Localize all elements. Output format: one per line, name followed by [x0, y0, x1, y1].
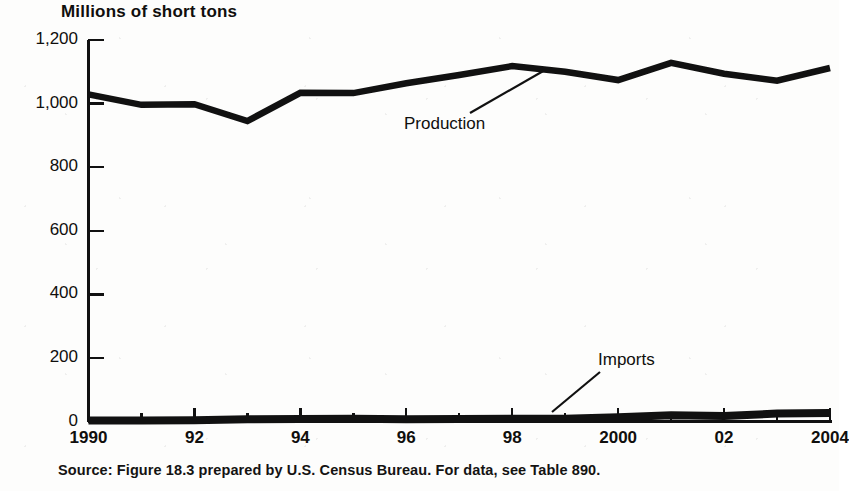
- series-label-production: Production: [404, 114, 485, 134]
- x-tick-label-1998: 98: [503, 428, 522, 448]
- x-tick-label-2000: 2000: [599, 428, 637, 448]
- x-tick-label-1994: 94: [291, 428, 310, 448]
- x-tick-label-2002: 02: [715, 428, 734, 448]
- y-tick-label-0: 0: [0, 411, 78, 431]
- series-label-imports: Imports: [598, 350, 655, 370]
- y-tick-label-400: 400: [0, 283, 78, 303]
- x-tick-label-1992: 92: [185, 428, 204, 448]
- y-tick-label-1000: 1,000: [0, 93, 78, 113]
- x-tick-label-1996: 96: [397, 428, 416, 448]
- y-tick-label-1200: 1,200: [0, 29, 78, 49]
- y-tick-label-600: 600: [0, 220, 78, 240]
- x-tick-label-1990: 1990: [70, 428, 108, 448]
- annotation-leader-lines: [470, 70, 600, 412]
- source-note: Source: Figure 18.3 prepared by U.S. Cen…: [58, 462, 600, 478]
- series-line-production: [89, 63, 831, 121]
- x-tick-label-2004: 2004: [811, 428, 849, 448]
- y-axis-ticks: [88, 40, 104, 358]
- y-tick-label-800: 800: [0, 156, 78, 176]
- y-tick-label-200: 200: [0, 347, 78, 367]
- axis-lines: [88, 40, 832, 422]
